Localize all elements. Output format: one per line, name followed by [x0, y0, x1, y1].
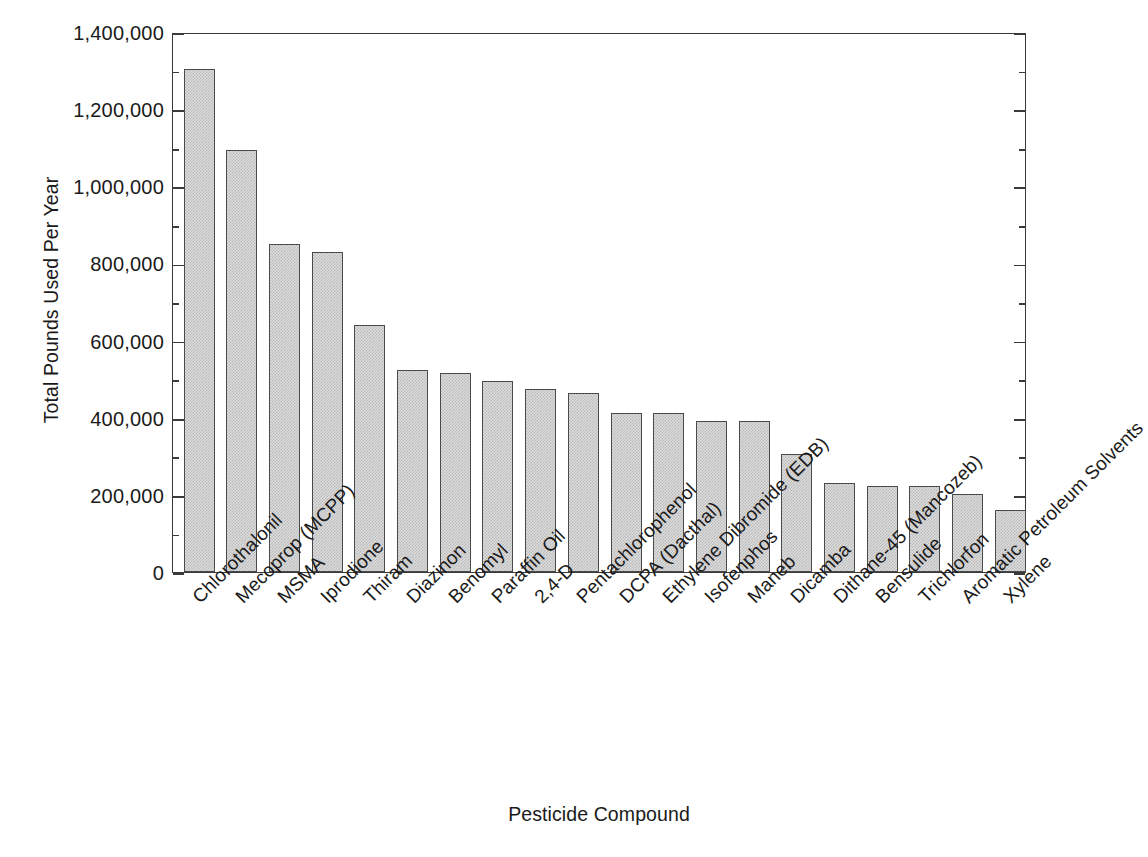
- x-tick-label: Aromatic Petroleum Solvents: [957, 417, 1148, 608]
- x-axis-title: Pesticide Compound: [172, 803, 1026, 826]
